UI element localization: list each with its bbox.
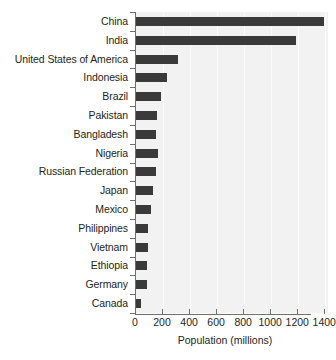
category-tick	[130, 275, 135, 276]
bar	[136, 130, 156, 139]
category-label: Canada	[92, 298, 128, 309]
x-tick-label: 200	[153, 316, 171, 328]
category-row: Brazil	[0, 87, 133, 106]
x-tick-label: 1000	[259, 316, 282, 328]
category-label: Indonesia	[83, 72, 128, 83]
bar-row	[136, 12, 328, 31]
category-row: Russian Federation	[0, 163, 133, 182]
category-axis: ChinaIndiaUnited States of AmericaIndone…	[0, 12, 133, 313]
bar-row	[136, 181, 328, 200]
category-label: Bangladesh	[74, 129, 128, 140]
x-tick	[189, 309, 190, 314]
category-label: United States of America	[15, 54, 128, 65]
bar	[136, 17, 324, 26]
bar	[136, 224, 148, 233]
bar-row	[136, 238, 328, 257]
category-row: Ethiopia	[0, 257, 133, 276]
bar-row	[136, 200, 328, 219]
category-label: Mexico	[95, 204, 128, 215]
bar	[136, 299, 141, 308]
category-tick	[130, 181, 135, 182]
x-tick-label: 800	[234, 316, 252, 328]
x-axis-line	[135, 314, 311, 315]
bar	[136, 205, 151, 214]
x-tick-label: 400	[180, 316, 198, 328]
category-tick	[130, 257, 135, 258]
x-tick-label: 600	[207, 316, 225, 328]
category-label: Japan	[100, 185, 128, 196]
bar-row	[136, 257, 328, 276]
x-tick-label: 1200	[286, 316, 309, 328]
category-tick	[130, 144, 135, 145]
category-label: Germany	[86, 279, 128, 290]
category-tick	[130, 294, 135, 295]
x-tick	[297, 309, 298, 314]
category-label: Ethiopia	[91, 260, 128, 271]
category-row: Philippines	[0, 219, 133, 238]
x-axis-title: Population (millions)	[135, 334, 315, 346]
category-label: Brazil	[102, 91, 128, 102]
x-tick-label: 0	[132, 316, 138, 328]
plot-area	[136, 12, 328, 313]
bar	[136, 92, 161, 101]
x-tick-label: 1400	[313, 316, 336, 328]
bar-row	[136, 50, 328, 69]
category-tick	[130, 106, 135, 107]
x-tick	[216, 309, 217, 314]
category-tick	[130, 31, 135, 32]
category-row: China	[0, 12, 133, 31]
bar-row	[136, 144, 328, 163]
category-tick	[130, 219, 135, 220]
category-label: Nigeria	[95, 148, 128, 159]
bar-row	[136, 294, 328, 313]
x-tick	[243, 309, 244, 314]
bar	[136, 280, 147, 289]
category-row: Bangladesh	[0, 125, 133, 144]
category-label: Pakistan	[89, 110, 128, 121]
bar-row	[136, 125, 328, 144]
category-row: India	[0, 31, 133, 50]
category-row: Indonesia	[0, 68, 133, 87]
category-row: Japan	[0, 181, 133, 200]
category-row: Pakistan	[0, 106, 133, 125]
x-tick	[270, 309, 271, 314]
bar	[136, 261, 147, 270]
category-label: Russian Federation	[39, 166, 128, 177]
x-tick	[135, 309, 136, 314]
category-tick	[130, 50, 135, 51]
bar-row	[136, 275, 328, 294]
category-tick	[130, 87, 135, 88]
category-tick	[130, 163, 135, 164]
category-row: Germany	[0, 275, 133, 294]
bar	[136, 73, 167, 82]
bar	[136, 167, 156, 176]
bar	[136, 149, 158, 158]
category-tick	[130, 238, 135, 239]
category-tick	[130, 200, 135, 201]
category-tick	[130, 125, 135, 126]
bar-row	[136, 31, 328, 50]
bar-series	[136, 12, 328, 313]
category-row: Nigeria	[0, 144, 133, 163]
category-row: Canada	[0, 294, 133, 313]
category-label: Vietnam	[90, 242, 128, 253]
category-label: India	[106, 35, 128, 46]
category-label: Philippines	[78, 223, 128, 234]
category-row: Vietnam	[0, 238, 133, 257]
bar	[136, 55, 178, 64]
bar	[136, 111, 157, 120]
category-row: United States of America	[0, 50, 133, 69]
category-label: China	[101, 16, 128, 27]
bar-row	[136, 219, 328, 238]
bar-row	[136, 68, 328, 87]
category-row: Mexico	[0, 200, 133, 219]
category-tick	[130, 12, 135, 13]
bar	[136, 243, 148, 252]
bar-row	[136, 106, 328, 125]
x-tick	[324, 309, 325, 314]
bar	[136, 36, 296, 45]
bar	[136, 186, 153, 195]
x-tick	[162, 309, 163, 314]
bar-row	[136, 163, 328, 182]
